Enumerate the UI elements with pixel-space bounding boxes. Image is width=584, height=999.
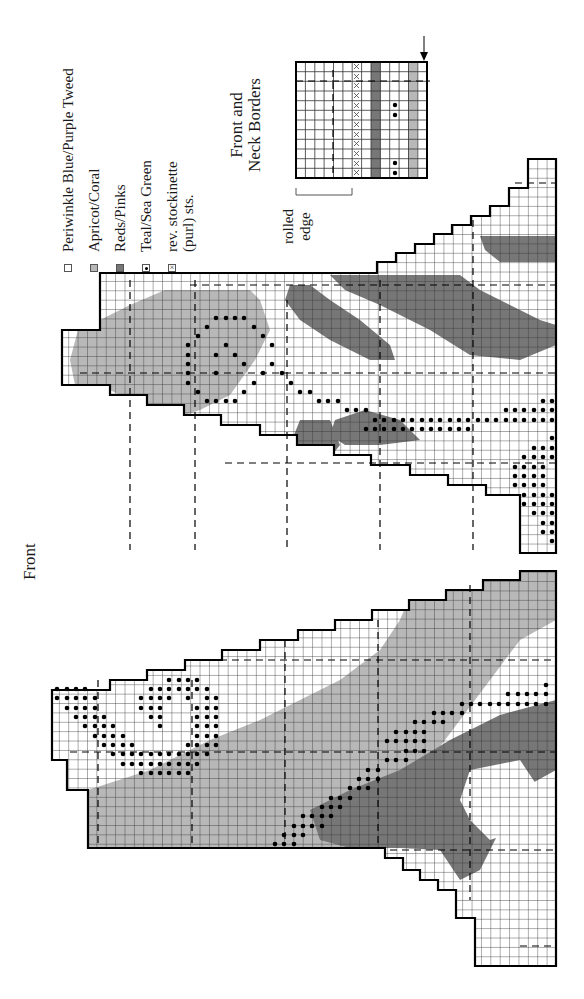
- rolled-edge-bracket: [296, 188, 352, 195]
- borders-chart: [296, 36, 430, 195]
- page-title: Front: [20, 543, 40, 580]
- borders-title-line1: Front and: [228, 78, 246, 172]
- legend-label: rev. stockinette: [164, 161, 181, 252]
- rolled-edge-line2: edge: [297, 209, 314, 244]
- dot-square-icon: [142, 264, 150, 272]
- knitting-chart: [0, 0, 584, 999]
- borders-title-line2: Neck Borders: [246, 78, 264, 172]
- x-square-icon: ×: [168, 264, 176, 272]
- legend-label: Teal/Sea Green: [138, 160, 155, 252]
- borders-chart-title: Front and Neck Borders: [228, 78, 264, 172]
- legend-label: Apricot/Coral: [86, 169, 103, 252]
- lower-front-piece: [0, 560, 560, 970]
- rolled-edge-label: rolled edge: [280, 209, 314, 244]
- dark-gray-square-icon: [116, 264, 124, 272]
- legend-label: Reds/Pinks: [112, 184, 129, 252]
- light-gray-square-icon: [90, 264, 98, 272]
- legend-label: (purl) sts.: [180, 195, 197, 253]
- legend-label: Periwinkle Blue/Purple Tweed: [60, 68, 77, 252]
- rolled-edge-line1: rolled: [280, 209, 297, 244]
- empty-square-icon: [64, 264, 72, 272]
- start-arrow-icon: [420, 36, 428, 61]
